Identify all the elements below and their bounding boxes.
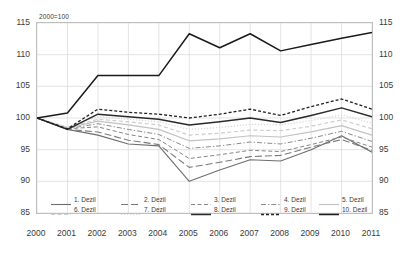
chart-legend: 1. Dezil2. Dezil3. Dezil4. Dezil5. Dezil…: [36, 195, 373, 214]
y-tick-label-left: 95: [4, 145, 30, 153]
legend-item-label: 2. Dezil: [144, 196, 166, 203]
y-tick-label-right: 95: [379, 145, 405, 153]
x-tick-label: 2011: [354, 229, 388, 238]
x-tick-label: 2009: [293, 229, 327, 238]
gridlines: [37, 23, 372, 213]
x-tick-label: 2008: [263, 229, 297, 238]
legend-item-label: 5. Dezil: [342, 196, 364, 203]
legend-line-swatch: [260, 205, 282, 214]
x-tick-label: 2006: [202, 229, 236, 238]
legend-item-label: 4. Dezil: [284, 196, 306, 203]
y-tick-label-left: 105: [4, 81, 30, 89]
series-line-6: [37, 118, 372, 135]
legend-line-swatch: [120, 205, 142, 214]
legend-line-swatch: [50, 205, 72, 214]
x-tick-label: 2000: [19, 229, 53, 238]
legend-line-swatch: [260, 195, 282, 204]
plot-area: [36, 22, 373, 214]
x-tick-label: 2005: [171, 229, 205, 238]
x-tick-label: 2007: [232, 229, 266, 238]
x-tick-label: 2004: [141, 229, 175, 238]
index-base-annotation: 2000=100: [39, 13, 69, 20]
y-tick-label-left: 90: [4, 176, 30, 184]
y-tick-label-left: 85: [4, 208, 30, 216]
legend-line-swatch: [120, 195, 142, 204]
y-tick-label-right: 100: [379, 113, 405, 121]
y-tick-label-right: 115: [379, 18, 405, 26]
x-tick-label: 2010: [324, 229, 358, 238]
series-line-5: [37, 118, 372, 141]
legend-item-label: 3. Dezil: [214, 196, 236, 203]
legend-item-label: 1. Dezil: [74, 196, 96, 203]
legend-line-swatch: [190, 195, 212, 204]
x-tick-label: 2001: [49, 229, 83, 238]
y-tick-label-left: 100: [4, 113, 30, 121]
legend-item-label: 10. Dezil: [342, 206, 367, 213]
y-tick-label-right: 90: [379, 176, 405, 184]
y-tick-label-right: 110: [379, 50, 405, 58]
legend-item-label: 6. Dezil: [74, 206, 96, 213]
legend-row-1: 1. Dezil2. Dezil3. Dezil4. Dezil5. Dezil: [36, 195, 373, 204]
legend-line-swatch: [190, 205, 212, 214]
legend-line-swatch: [318, 195, 340, 204]
legend-item-label: 9. Dezil: [284, 206, 306, 213]
x-tick-label: 2003: [110, 229, 144, 238]
y-tick-label-right: 105: [379, 81, 405, 89]
legend-row-2: 6. Dezil7. Dezil8. Dezil9. Dezil10. Dezi…: [36, 205, 373, 214]
y-tick-label-left: 115: [4, 18, 30, 26]
series-line-10: [37, 33, 372, 119]
legend-line-swatch: [318, 205, 340, 214]
legend-line-swatch: [50, 195, 72, 204]
chart-figure: 2000=100 115110105100959085 115110105100…: [0, 0, 409, 259]
x-tick-label: 2002: [80, 229, 114, 238]
y-tick-label-left: 110: [4, 50, 30, 58]
chart-svg: [37, 23, 372, 213]
y-tick-label-right: 85: [379, 208, 405, 216]
legend-item-label: 8. Dezil: [214, 206, 236, 213]
legend-item-label: 7. Dezil: [144, 206, 166, 213]
series-line-8: [37, 108, 372, 130]
